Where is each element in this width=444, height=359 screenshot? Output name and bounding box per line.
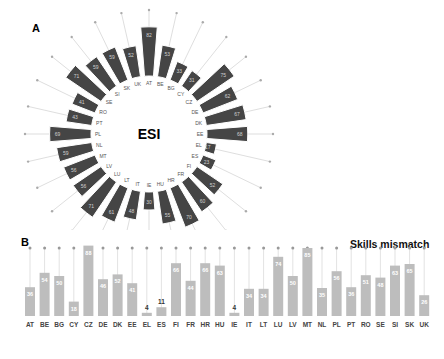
esi-country-label: LT: [124, 177, 129, 183]
stem-dot: [291, 247, 294, 250]
skills-value-label: 50: [56, 280, 62, 286]
spoke-dot: [24, 133, 26, 135]
stem-dot: [364, 247, 367, 250]
esi-value-label: 62: [225, 93, 231, 99]
esi-value-label: 56: [71, 167, 77, 173]
skills-country-label: UK: [420, 321, 430, 328]
spoke-dot: [272, 133, 274, 135]
skills-country-label: IE: [231, 321, 238, 328]
esi-value-label: 59: [93, 64, 99, 70]
skills-country-label: AT: [26, 321, 34, 328]
skills-value-label: 52: [115, 278, 121, 284]
skills-value-label: 4: [145, 304, 149, 311]
skills-country-label: EL: [143, 321, 151, 328]
esi-country-label: SE: [106, 99, 113, 105]
skills-country-label: CY: [69, 321, 79, 328]
esi-radial-chart: 82AT53BE33BG31CY75CZ62DE67DK68EE17EL23ES…: [0, 0, 444, 230]
stem-dot: [423, 247, 426, 250]
esi-value-label: 31: [189, 77, 195, 83]
esi-country-label: IE: [147, 182, 152, 188]
esi-value-label: 61: [109, 209, 115, 215]
spoke-dot: [245, 210, 247, 212]
skills-country-label: BE: [40, 321, 50, 328]
spoke-dot: [36, 187, 38, 189]
esi-value-label: 30: [146, 199, 152, 205]
esi-country-label: AT: [146, 80, 152, 86]
esi-value-label: 69: [55, 131, 61, 137]
esi-value-label: 67: [234, 111, 240, 117]
skills-value-label: 66: [202, 267, 208, 273]
esi-country-label: DE: [191, 109, 199, 115]
spoke-dot: [260, 187, 262, 189]
skills-country-label: LU: [274, 321, 283, 328]
esi-country-label: IT: [135, 181, 139, 187]
spoke-dot: [120, 12, 122, 14]
stem-dot: [262, 247, 265, 250]
stem-dot: [72, 247, 75, 250]
esi-country-label: BE: [157, 81, 164, 87]
esi-country-label: SI: [115, 91, 120, 97]
skills-mismatch-bar-chart: 36AT54BE50BG18CY88CZ46DE52DK41EE4EL11ES6…: [0, 230, 444, 359]
stem-dot: [116, 247, 119, 250]
esi-value-label: 75: [220, 72, 226, 78]
skills-country-label: SI: [392, 321, 398, 328]
esi-country-label: DK: [195, 120, 203, 126]
skills-value-label: 34: [246, 293, 253, 299]
stem-dot: [160, 247, 163, 250]
stem-dot: [29, 247, 32, 250]
skills-bar-es: [156, 307, 166, 316]
skills-value-label: 48: [377, 282, 383, 288]
skills-value-label: 26: [421, 299, 427, 305]
skills-country-label: DK: [113, 321, 123, 328]
esi-value-label: 48: [129, 208, 135, 214]
esi-value-label: 71: [74, 73, 80, 79]
esi-center-title: ESI: [138, 126, 161, 142]
spoke-dot: [51, 210, 53, 212]
stem-dot: [43, 247, 46, 250]
esi-country-label: EE: [197, 131, 204, 137]
skills-value-label: 34: [261, 293, 268, 299]
skills-country-label: NL: [318, 321, 327, 328]
skills-value-label: 63: [392, 270, 398, 276]
skills-country-label: RO: [361, 321, 371, 328]
stem-dot: [131, 247, 134, 250]
stem-dot: [204, 247, 207, 250]
spoke-dot: [27, 160, 29, 162]
esi-value-label: 56: [81, 183, 87, 189]
esi-value-label: 43: [72, 114, 78, 120]
esi-value-label: 82: [146, 32, 152, 38]
esi-value-label: 60: [200, 198, 206, 204]
skills-value-label: 88: [85, 250, 91, 256]
esi-country-label: PL: [95, 131, 101, 137]
skills-value-label: 36: [27, 291, 33, 297]
esi-country-label: MT: [99, 153, 106, 159]
esi-country-label: HR: [168, 177, 176, 183]
skills-value-label: 41: [129, 287, 135, 293]
esi-country-label: UK: [134, 81, 142, 87]
skills-value-label: 63: [217, 270, 223, 276]
esi-country-label: BG: [168, 85, 175, 91]
skills-country-label: PT: [347, 321, 355, 328]
skills-bar-el: [142, 313, 152, 316]
spoke-dot: [245, 55, 247, 57]
skills-value-label: 18: [71, 306, 77, 312]
skills-country-label: IT: [246, 321, 252, 328]
stem-dot: [277, 247, 280, 250]
esi-country-label: PT: [96, 120, 102, 126]
spoke-dot: [269, 160, 271, 162]
skills-country-label: BG: [54, 321, 64, 328]
skills-country-label: MT: [303, 321, 312, 328]
stem-dot: [379, 247, 382, 250]
spoke-dot: [51, 55, 53, 57]
skills-country-label: EE: [128, 321, 137, 328]
esi-value-label: 59: [63, 150, 69, 156]
esi-country-label: ES: [192, 153, 199, 159]
esi-value-label: 17: [205, 144, 211, 150]
skills-country-label: SK: [405, 321, 414, 328]
skills-value-label: 54: [42, 277, 49, 283]
skills-value-label: 4: [233, 304, 237, 311]
stem-dot: [189, 247, 192, 250]
skills-bar-ie: [229, 313, 239, 316]
skills-country-label: DE: [98, 321, 108, 328]
skills-value-label: 11: [158, 298, 165, 305]
